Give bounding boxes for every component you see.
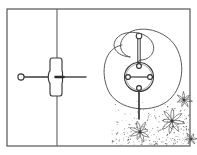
speckle-dot xyxy=(129,135,130,136)
speckle-dot xyxy=(122,120,123,121)
speckle-dot xyxy=(181,128,182,129)
speckle-dot xyxy=(185,117,186,118)
speckle-dot xyxy=(174,108,175,109)
speckle-dot xyxy=(157,145,158,146)
speckle-dot xyxy=(148,113,149,114)
speckle-dot xyxy=(127,128,128,129)
speckle-dot xyxy=(189,144,190,145)
speckle-dot xyxy=(130,114,131,115)
speckle-dot xyxy=(157,127,158,128)
speckle-dot xyxy=(156,143,157,144)
speckle-dot xyxy=(180,129,181,130)
speckle-dot xyxy=(189,128,190,129)
spoke-top xyxy=(137,64,142,69)
speckle-dot xyxy=(142,141,143,142)
speckle-dot xyxy=(184,140,185,141)
speckle-dot xyxy=(139,141,140,142)
speckle-dot xyxy=(121,144,122,145)
speckle-dot xyxy=(123,138,124,139)
speckle-dot xyxy=(180,139,181,140)
spoke-right xyxy=(148,75,153,80)
speckle-dot xyxy=(117,132,118,133)
speckle-dot xyxy=(173,128,174,129)
speckle-dot xyxy=(158,131,159,132)
speckle-dot xyxy=(163,130,164,131)
speckle-dot xyxy=(151,116,152,117)
speckle-dot xyxy=(127,133,128,134)
speckle-dot xyxy=(156,137,157,138)
spoke-bottom xyxy=(137,86,142,91)
speckle-dot xyxy=(168,137,169,138)
speckle-dot xyxy=(137,118,138,119)
speckle-dot xyxy=(164,124,165,125)
speckle-dot xyxy=(152,145,153,146)
speckle-dot xyxy=(116,139,117,140)
speckle-dot xyxy=(189,126,190,127)
speckle-dot xyxy=(117,122,118,123)
speckle-dot xyxy=(186,128,187,129)
circular-hub xyxy=(125,63,154,92)
speckle-dot xyxy=(183,133,184,134)
speckle-dot xyxy=(139,128,140,129)
speckle-dot xyxy=(112,141,113,142)
speckle-dot xyxy=(149,140,150,141)
spoke-left xyxy=(126,75,131,80)
speckle-dot xyxy=(151,135,152,136)
speckle-dot xyxy=(188,130,189,131)
speckle-dot xyxy=(163,118,164,119)
speckle-dot xyxy=(186,129,187,130)
speckle-dot xyxy=(118,109,119,110)
speckle-dot xyxy=(183,138,184,139)
speckle-dot xyxy=(184,127,185,128)
speckle-dot xyxy=(133,141,134,142)
speckle-dot xyxy=(158,136,159,137)
speckle-dot xyxy=(119,140,120,141)
speckle-dot xyxy=(157,141,158,142)
pin-knob-icon xyxy=(18,74,24,80)
speckle-dot xyxy=(129,124,130,125)
speckle-dot xyxy=(122,130,123,131)
speckle-dot xyxy=(142,127,143,128)
speckle-dot xyxy=(123,132,124,133)
speckle-dot xyxy=(128,127,129,128)
speckle-dot xyxy=(152,128,153,129)
speckle-dot xyxy=(180,117,181,118)
speckle-dot xyxy=(144,114,145,115)
speckle-dot xyxy=(174,139,175,140)
speckle-dot xyxy=(148,134,149,135)
speckle-dot xyxy=(183,113,184,114)
speckle-dot xyxy=(161,108,162,109)
speckle-dot xyxy=(163,141,164,142)
speckle-dot xyxy=(134,118,135,119)
speckle-dot xyxy=(162,114,163,115)
speckle-dot xyxy=(162,137,163,138)
speckle-dot xyxy=(159,138,160,139)
speckle-dot xyxy=(166,139,167,140)
speckle-dot xyxy=(155,117,156,118)
speckle-dot xyxy=(129,141,130,142)
speckle-dot xyxy=(184,139,185,140)
speckle-dot xyxy=(167,134,168,135)
speckle-dot xyxy=(171,140,172,141)
speckle-dot xyxy=(141,137,142,138)
speckle-dot xyxy=(149,131,150,132)
speckle-dot xyxy=(166,110,167,111)
speckle-dot xyxy=(167,121,168,122)
speckle-dot xyxy=(149,143,150,144)
speckle-dot xyxy=(179,137,180,138)
speckle-dot xyxy=(147,119,148,120)
speckle-dot xyxy=(141,146,142,147)
line-art-drawing xyxy=(0,0,197,155)
speckle-dot xyxy=(140,144,141,145)
speckle-dot xyxy=(187,122,188,123)
speckle-dot xyxy=(113,130,114,131)
speckle-dot xyxy=(148,140,149,141)
speckle-dot xyxy=(154,109,155,110)
speckle-dot xyxy=(183,126,184,127)
speckle-dot xyxy=(175,143,176,144)
speckle-dot xyxy=(117,125,118,126)
speckle-dot xyxy=(189,114,190,115)
speckle-dot xyxy=(133,142,134,143)
speckle-dot xyxy=(189,131,190,132)
speckle-dot xyxy=(130,124,131,125)
